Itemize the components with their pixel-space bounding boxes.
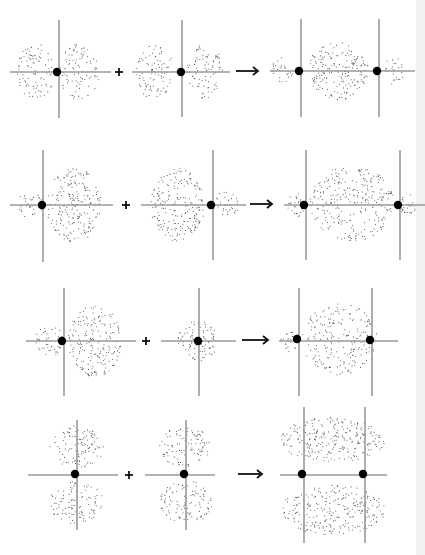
nucleus-dot	[373, 67, 381, 75]
plus-icon	[125, 471, 133, 479]
orbital	[10, 150, 113, 262]
orbital	[26, 288, 136, 396]
orbital	[145, 420, 215, 530]
orbital-lobe	[281, 417, 384, 462]
plus-icon	[142, 337, 150, 345]
orbital	[141, 150, 246, 260]
nucleus-dot	[298, 470, 306, 478]
nucleus-dot	[194, 337, 202, 345]
orbital	[284, 150, 425, 260]
arrow-right-icon	[238, 470, 262, 478]
orbital-lobe	[159, 427, 209, 466]
plus-icon	[122, 201, 130, 209]
orbital	[270, 19, 415, 117]
nucleus-dot	[293, 335, 301, 343]
orbital	[279, 288, 398, 396]
row-p-p-pi	[28, 407, 387, 543]
nucleus-dot	[366, 336, 374, 344]
row-sp-s-sigma	[26, 288, 398, 396]
arrow-right-icon	[242, 336, 268, 344]
nucleus-dot	[180, 470, 188, 478]
row-s-p-hybrid-sigma	[10, 150, 425, 262]
nucleus-dot	[300, 201, 308, 209]
orbital	[28, 420, 118, 530]
orbital-lobe	[213, 192, 239, 216]
orbital-lobe	[17, 45, 52, 98]
orbital	[161, 288, 236, 396]
nucleus-dot	[177, 68, 185, 76]
arrow-right-icon	[250, 200, 272, 208]
orbital	[10, 20, 111, 118]
diagram-rows	[10, 19, 425, 543]
orbital-lobe	[271, 57, 293, 82]
nucleus-dot	[38, 201, 46, 209]
plus-icon	[115, 68, 123, 76]
orbital	[132, 20, 230, 117]
nucleus-dot	[359, 470, 367, 478]
orbital-lobe	[283, 485, 385, 535]
row-p-p-sigma	[10, 19, 415, 118]
arrow-right-icon	[236, 67, 258, 75]
nucleus-dot	[207, 201, 215, 209]
nucleus-dot	[71, 470, 79, 478]
orbital-combination-diagram	[0, 0, 425, 555]
orbital	[280, 407, 387, 543]
nucleus-dot	[58, 337, 66, 345]
nucleus-dot	[394, 201, 402, 209]
nucleus-dot	[53, 68, 61, 76]
orbital-lobe	[401, 194, 416, 213]
nucleus-dot	[295, 67, 303, 75]
orbital-lobe	[302, 303, 377, 375]
